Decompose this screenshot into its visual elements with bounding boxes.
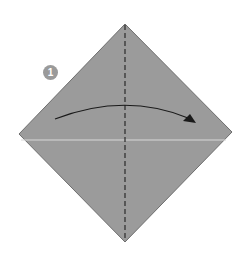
step-number-badge: 1 <box>43 65 58 80</box>
origami-diagram <box>0 0 251 269</box>
step-number: 1 <box>48 67 54 78</box>
